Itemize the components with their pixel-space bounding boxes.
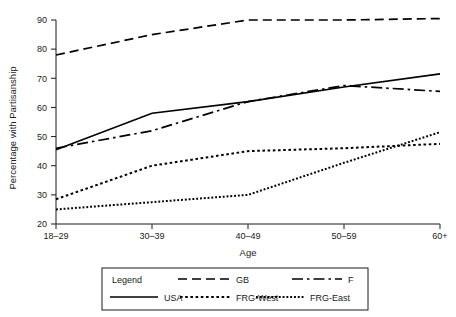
x-tick-label: 18–29 (43, 231, 68, 241)
chart-container: Percentage with Partisanship 20 30 40 50… (0, 0, 456, 317)
y-tick-label: 70 (37, 74, 47, 84)
y-tick-label: 40 (37, 161, 47, 171)
x-tick-label: 50–59 (331, 231, 356, 241)
y-tick-label: 80 (37, 44, 47, 54)
legend-label-frg-east: FRG-East (310, 293, 351, 303)
x-tick-label: 30–39 (139, 231, 164, 241)
legend-label-f: F (348, 275, 354, 285)
series-line-frg-east (56, 132, 440, 209)
y-tick-label: 30 (37, 190, 47, 200)
y-tick-label: 90 (37, 15, 47, 25)
series-layer (56, 19, 440, 210)
x-axis-tick-labels: 18–29 30–39 40–49 50–59 60+ (43, 231, 447, 241)
y-tick-label: 60 (37, 103, 47, 113)
partisanship-by-age-line-chart: Percentage with Partisanship 20 30 40 50… (0, 0, 456, 317)
x-tick-label: 40–49 (235, 231, 260, 241)
y-axis-tick-labels: 20 30 40 50 60 70 80 90 (37, 15, 47, 229)
y-axis-ticks (51, 20, 56, 224)
series-line-frg-west (56, 144, 440, 199)
x-tick-label: 60+ (432, 231, 447, 241)
y-tick-label: 20 (37, 219, 47, 229)
legend: Legend GB F USA FRG-West FRG-East (102, 268, 368, 310)
x-axis-title: Age (240, 247, 257, 258)
x-axis-ticks (56, 224, 440, 229)
y-axis-title: Percentage with Partisanship (7, 66, 18, 189)
y-tick-label: 50 (37, 132, 47, 142)
legend-label-usa: USA (164, 293, 183, 303)
legend-title: Legend (112, 275, 142, 285)
series-line-gb (56, 19, 440, 55)
series-line-f (56, 86, 440, 149)
legend-label-gb: GB (236, 275, 249, 285)
